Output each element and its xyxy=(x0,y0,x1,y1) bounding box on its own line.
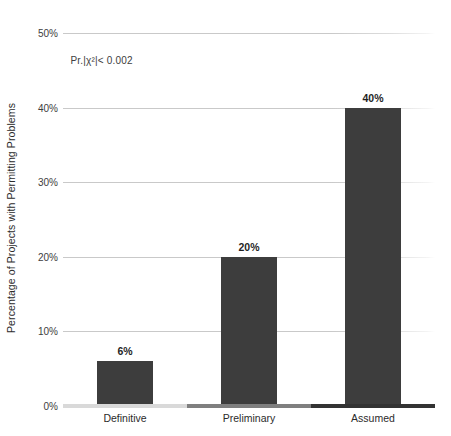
bar-value-label: 20% xyxy=(238,241,259,253)
bar-value-label: 6% xyxy=(117,345,132,357)
bar-group[interactable]: 6% xyxy=(97,33,153,406)
y-axis-tick-label: 10% xyxy=(18,326,58,337)
x-axis-segment xyxy=(63,404,187,408)
bar-chart: Percentage of Projects with Permitting P… xyxy=(0,0,451,436)
bar[interactable] xyxy=(221,257,277,406)
y-axis-tick-labels: 0%10%20%30%40%50% xyxy=(18,0,58,436)
x-axis-segment xyxy=(187,404,311,408)
y-axis-tick-label: 0% xyxy=(18,401,58,412)
x-axis-category-label: Preliminary xyxy=(223,412,276,424)
bar-group[interactable]: 40% xyxy=(345,33,401,406)
bars: 6%20%40% xyxy=(63,33,435,406)
y-axis-tick-label: 20% xyxy=(18,251,58,262)
x-axis-segment xyxy=(311,404,435,408)
x-axis-category-labels: DefinitivePreliminaryAssumed xyxy=(63,412,435,432)
bar[interactable] xyxy=(97,361,153,406)
bar[interactable] xyxy=(345,108,401,406)
x-axis-baseline xyxy=(63,404,435,408)
plot-area: Pr.|χ²|< 0.002 6%20%40% xyxy=(63,33,435,406)
y-axis-tick-label: 50% xyxy=(18,28,58,39)
y-axis-tick-label: 30% xyxy=(18,177,58,188)
bar-value-label: 40% xyxy=(362,92,383,104)
x-axis-category-label: Assumed xyxy=(351,412,395,424)
x-axis-category-label: Definitive xyxy=(103,412,146,424)
y-axis-tick-label: 40% xyxy=(18,102,58,113)
bar-group[interactable]: 20% xyxy=(221,33,277,406)
